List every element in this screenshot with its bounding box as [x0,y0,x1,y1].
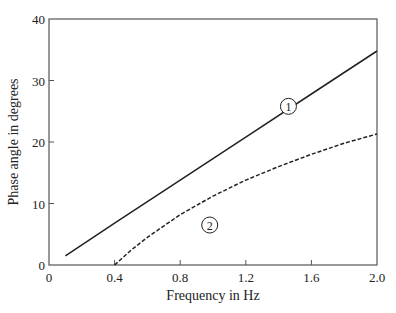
x-tick-label: 0 [46,270,53,285]
series-2-line [115,134,377,265]
y-tick-label: 0 [39,258,46,273]
y-tick-label: 40 [32,12,45,27]
series-group [65,51,377,265]
y-axis-label: Phase angle in degrees [6,78,21,205]
x-tick-label: 0.8 [172,270,188,285]
y-axis: 010203040 [32,12,54,273]
x-tick-label: 1.6 [303,270,320,285]
line-chart: 00.40.81.21.62.0 010203040 12 Frequency … [0,0,396,313]
series-labels: 12 [202,98,297,233]
x-tick-label: 2.0 [369,270,385,285]
y-tick-label: 30 [32,74,45,89]
series-2-label: 2 [207,219,213,233]
x-axis-label: Frequency in Hz [166,288,259,303]
series-1-label: 1 [285,100,291,114]
series-1-line [65,51,377,256]
x-axis: 00.40.81.21.62.0 [46,260,385,285]
x-tick-label: 1.2 [238,270,254,285]
y-tick-label: 10 [32,197,45,212]
y-tick-label: 20 [32,135,45,150]
x-tick-label: 0.4 [106,270,123,285]
